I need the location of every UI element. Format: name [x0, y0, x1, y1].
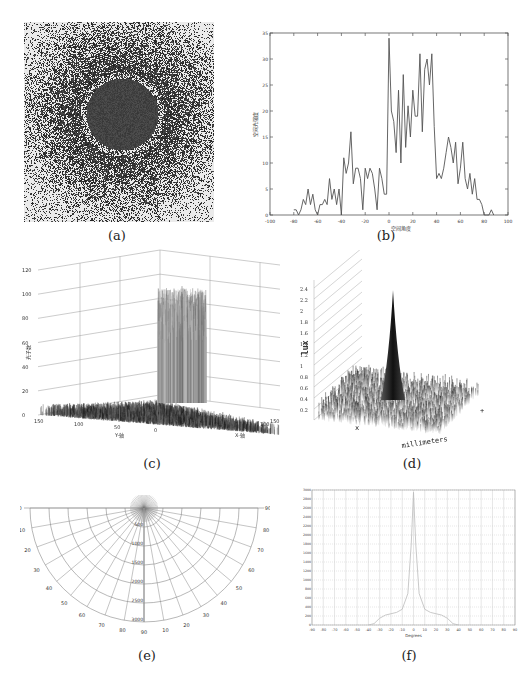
radial-label: 3000	[132, 617, 144, 622]
y-tick-label: 1400	[303, 560, 311, 564]
surface-plot-c	[20, 240, 280, 440]
panel-c-surface-plot	[20, 240, 280, 440]
radial-label: 1000	[132, 541, 144, 546]
x-tick-label: -90	[309, 628, 315, 632]
data-line	[294, 38, 494, 215]
angle-label: 60	[248, 567, 254, 573]
x-tick-label: -70	[332, 628, 338, 632]
angle-label: 30	[203, 612, 209, 618]
angle-label: 70	[257, 547, 263, 553]
x-tick-label: -40	[366, 628, 372, 632]
y-tick-label: 2600	[303, 506, 311, 510]
speckle-image-canvas	[24, 22, 214, 222]
panel-b-line-chart: -100-80-60-40-20020406080100051015202530…	[245, 25, 525, 235]
y-tick-label: 2200	[303, 524, 311, 528]
x-tick-label: 30	[445, 628, 449, 632]
y-tick-label: 1200	[303, 569, 311, 573]
angle-label: 90	[265, 505, 270, 511]
angle-label: 20	[183, 622, 189, 628]
panel-a-speckle-image	[24, 22, 214, 222]
x-tick-label: -100	[265, 219, 275, 224]
angle-label: 50	[236, 585, 242, 591]
y-tick-label: 800	[305, 587, 311, 591]
angle-label: 10	[162, 627, 168, 633]
x-tick-label: 40	[434, 219, 440, 224]
y-tick-label: 20	[262, 109, 268, 114]
x-axis-label: Degrees	[405, 633, 422, 638]
caption-f: (f)	[389, 648, 429, 663]
caption-d: (d)	[392, 456, 432, 471]
y-tick-label: 0	[309, 623, 311, 627]
y-tick-label: 1600	[303, 551, 311, 555]
x-tick-label: 0	[412, 628, 414, 632]
y-tick-label: 10	[262, 161, 268, 166]
angle-label: 50	[61, 600, 67, 606]
x-tick-label: -50	[354, 628, 360, 632]
angle-label: 90	[141, 629, 147, 635]
radial-label: 500	[134, 522, 143, 527]
y-tick-label: 3000	[303, 488, 311, 492]
x-tick-label: -60	[314, 219, 321, 224]
x-tick-label: -80	[320, 628, 326, 632]
lux-surface-plot	[300, 250, 531, 450]
x-tick-label: 80	[481, 219, 487, 224]
x-tick-label: -80	[290, 219, 297, 224]
angle-label: 20	[24, 547, 30, 553]
x-tick-label: 10	[423, 628, 427, 632]
x-tick-label: -10	[399, 628, 405, 632]
x-tick-label: 50	[468, 628, 472, 632]
polar-chart-e: 9080706050403020100908070605040302010500…	[20, 495, 270, 655]
panel-e-polar-plot: 9080706050403020100908070605040302010500…	[20, 495, 270, 655]
panel-f-angular-chart: -90-80-70-60-50-40-30-20-100102030405060…	[300, 485, 531, 645]
x-tick-label: 20	[410, 219, 416, 224]
angle-label: 70	[98, 622, 104, 628]
y-axis-label: 空间光强度	[252, 112, 259, 137]
x-tick-label: 60	[458, 219, 464, 224]
x-tick-label: 40	[456, 628, 460, 632]
y-tick-label: 1000	[303, 578, 311, 582]
radial-label: 2000	[132, 579, 144, 584]
y-tick-label: 30	[262, 57, 268, 62]
x-tick-label: 90	[513, 628, 517, 632]
y-tick-label: 25	[262, 83, 268, 88]
angle-label: 80	[263, 527, 269, 533]
x-tick-label: -40	[338, 219, 345, 224]
y-tick-label: 2400	[303, 515, 311, 519]
y-tick-label: 0	[265, 213, 268, 218]
panel-d-lux-surface	[300, 250, 531, 450]
x-tick-label: -20	[388, 628, 394, 632]
y-tick-label: 2000	[303, 533, 311, 537]
y-tick-label: 200	[305, 614, 311, 618]
angle-label: 40	[221, 600, 227, 606]
x-tick-label: 80	[501, 628, 505, 632]
angle-label: 40	[46, 585, 52, 591]
angle-label: 0	[20, 505, 22, 511]
y-tick-label: 400	[305, 605, 311, 609]
radial-label: 1500	[132, 560, 144, 565]
radial-label: 2500	[132, 598, 144, 603]
line-chart-f: -90-80-70-60-50-40-30-20-100102030405060…	[300, 485, 531, 645]
x-tick-label: -30	[377, 628, 383, 632]
y-tick-label: 15	[262, 135, 268, 140]
x-tick-label: 60	[479, 628, 483, 632]
y-tick-label: 600	[305, 596, 311, 600]
caption-c: (c)	[132, 456, 172, 471]
y-tick-label: 2800	[303, 497, 311, 501]
angle-label: 30	[33, 567, 39, 573]
line-chart-b: -100-80-60-40-20020406080100051015202530…	[245, 25, 525, 235]
x-tick-label: -20	[362, 219, 369, 224]
x-tick-label: -60	[343, 628, 349, 632]
x-tick-label: 0	[388, 219, 391, 224]
x-tick-label: 70	[490, 628, 494, 632]
caption-e: (e)	[127, 648, 167, 663]
x-tick-label: 20	[434, 628, 438, 632]
y-tick-label: 1800	[303, 542, 311, 546]
angle-label: 10	[20, 527, 25, 533]
angle-label: 60	[79, 612, 85, 618]
y-tick-label: 5	[265, 187, 268, 192]
y-tick-label: 35	[262, 31, 268, 36]
angle-label: 80	[119, 627, 125, 633]
x-tick-label: 100	[504, 219, 513, 224]
caption-b: (b)	[366, 228, 406, 243]
